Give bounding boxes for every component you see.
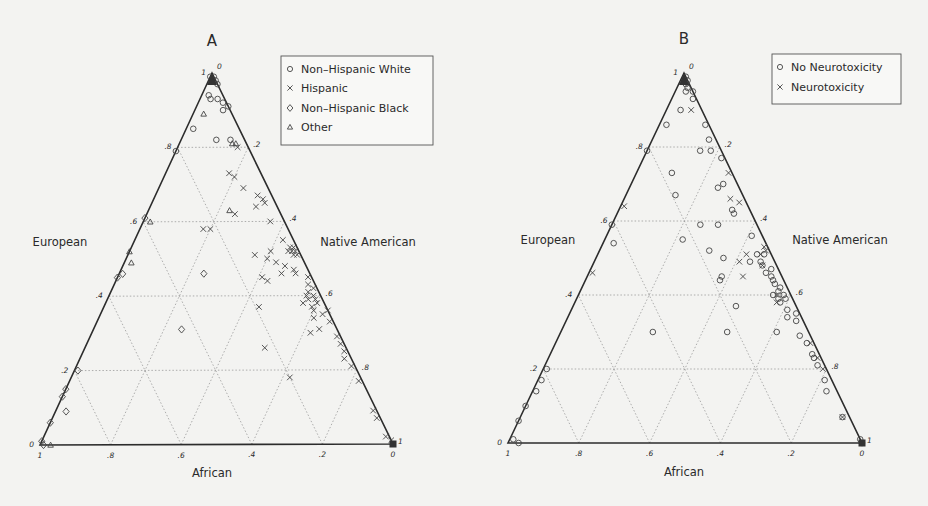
svg-text:.4: .4 [289, 214, 296, 223]
panel-title-a: A [207, 32, 218, 50]
svg-text:.2: .2 [319, 450, 326, 459]
svg-text:.6: .6 [130, 217, 137, 226]
svg-text:1: 1 [673, 68, 678, 77]
data-points-b [511, 73, 866, 447]
ternary-panel-b: B 001.2.2.8.4.4.6.6.6.4.8.8.2110 Europea… [497, 30, 901, 479]
svg-text:.2: .2 [725, 140, 732, 149]
axis-label-european-a: European [33, 235, 88, 249]
legend-label: Non–Hispanic Black [301, 102, 409, 115]
svg-text:0: 0 [860, 449, 865, 458]
legend-label: Other [301, 121, 333, 134]
svg-text:.8: .8 [362, 363, 369, 372]
axis-label-native-american-b: Native American [792, 233, 888, 247]
svg-text:1: 1 [398, 437, 403, 446]
svg-text:.8: .8 [107, 451, 114, 460]
axis-label-african-b: African [664, 465, 704, 479]
svg-text:1: 1 [867, 436, 872, 445]
svg-text:.6: .6 [178, 451, 185, 460]
figure: A 001.2.2.8.4.4.6.6.6.4.8.8.2110 Europea… [0, 0, 928, 506]
svg-text:.4: .4 [248, 450, 255, 459]
svg-text:.2: .2 [61, 366, 68, 375]
svg-text:.2: .2 [788, 449, 795, 458]
svg-text:1: 1 [38, 451, 43, 460]
ternary-figure: A 001.2.2.8.4.4.6.6.6.4.8.8.2110 Europea… [0, 0, 928, 506]
legend-item-non-hispanic-black: Non–Hispanic Black [287, 102, 409, 115]
svg-text:.8: .8 [831, 362, 838, 371]
tick-labels-b: 001.2.2.8.4.4.6.6.6.4.8.8.2110 [497, 62, 872, 458]
svg-text:0: 0 [391, 450, 396, 459]
svg-text:.8: .8 [575, 449, 582, 458]
svg-text:.6: .6 [646, 449, 653, 458]
grid-lines-b [543, 147, 826, 443]
svg-text:.6: .6 [600, 216, 607, 225]
svg-text:0: 0 [217, 62, 222, 71]
svg-text:.8: .8 [636, 142, 643, 151]
svg-text:.4: .4 [96, 291, 103, 300]
axis-label-native-american-a: Native American [320, 235, 416, 249]
axis-label-european-b: European [521, 233, 576, 247]
svg-text:.6: .6 [326, 289, 333, 298]
legend-item-non-hispanic-white: Non–Hispanic White [287, 63, 411, 76]
svg-text:1: 1 [201, 68, 206, 77]
svg-text:1: 1 [506, 449, 511, 458]
legend-a: Non–Hispanic White Hispanic Non–Hispanic… [281, 56, 433, 145]
svg-text:.2: .2 [530, 364, 537, 373]
svg-text:.2: .2 [253, 140, 260, 149]
svg-text:0: 0 [497, 438, 502, 447]
svg-text:.4: .4 [717, 449, 724, 458]
svg-text:.4: .4 [565, 290, 572, 299]
svg-text:.4: .4 [760, 214, 767, 223]
svg-text:.8: .8 [164, 142, 171, 151]
legend-label: Non–Hispanic White [301, 63, 411, 76]
legend-label: Hispanic [301, 82, 348, 95]
legend-b: No Neurotoxicity Neurotoxicity [772, 54, 901, 104]
svg-text:.6: .6 [796, 288, 803, 297]
panel-title-b: B [679, 30, 689, 48]
svg-text:0: 0 [29, 440, 34, 449]
legend-label: No Neurotoxicity [791, 61, 883, 74]
legend-item-no-neurotoxicity: No Neurotoxicity [777, 61, 883, 74]
axis-label-african-a: African [192, 466, 232, 480]
triangle-edges-b [508, 73, 862, 443]
legend-label: Neurotoxicity [791, 81, 865, 94]
ternary-panel-a: A 001.2.2.8.4.4.6.6.6.4.8.8.2110 Europea… [29, 32, 433, 480]
svg-text:0: 0 [689, 62, 694, 71]
legend-item-neurotoxicity: Neurotoxicity [777, 81, 864, 94]
